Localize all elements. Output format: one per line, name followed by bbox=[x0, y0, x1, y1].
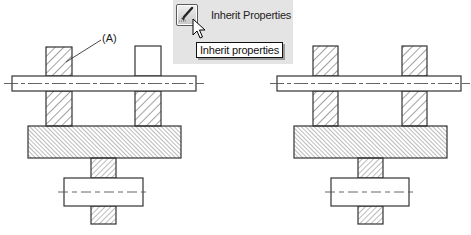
column-a-top bbox=[313, 46, 338, 76]
arrow-cursor-icon bbox=[192, 18, 206, 40]
base-plate bbox=[28, 126, 181, 158]
drawing-before bbox=[4, 40, 204, 224]
column-a-bottom bbox=[46, 91, 72, 126]
drawing-after bbox=[270, 46, 470, 224]
callout-label-a: (A) bbox=[102, 32, 117, 44]
column-b-top-unhatched bbox=[135, 46, 161, 76]
column-b-bottom bbox=[135, 91, 161, 126]
column-b-bottom bbox=[402, 91, 427, 126]
column-a-top bbox=[46, 47, 72, 76]
lower-stem-top bbox=[91, 158, 116, 178]
column-a-bottom bbox=[313, 91, 338, 126]
lower-stem-bottom bbox=[358, 206, 383, 224]
lower-stem-bottom bbox=[91, 206, 116, 224]
inherit-properties-label[interactable]: Inherit Properties bbox=[211, 9, 291, 21]
lower-stem-top bbox=[358, 158, 383, 178]
base-plate bbox=[294, 126, 447, 158]
column-b-top bbox=[402, 46, 427, 76]
tooltip: Inherit properties bbox=[196, 42, 283, 58]
